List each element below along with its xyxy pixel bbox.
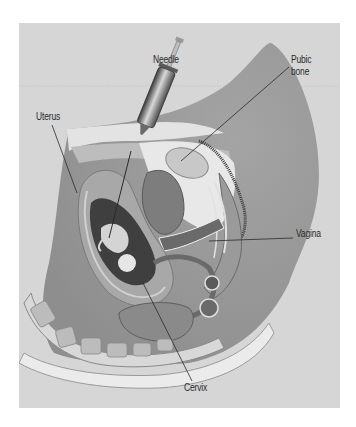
vagina-label: Vagina (296, 228, 321, 239)
anatomy-illustration (19, 23, 340, 408)
needle-label: Needle (153, 54, 179, 65)
cervix-label: Cervix (184, 382, 207, 393)
illustration-frame: Needle Pubic bone Uterus Vagina Cervix (19, 23, 340, 408)
pubic-bone-label-line1: Pubic (291, 54, 311, 65)
pubic-bone-label-line2: bone (291, 66, 309, 77)
uterus-label: Uterus (36, 111, 60, 122)
